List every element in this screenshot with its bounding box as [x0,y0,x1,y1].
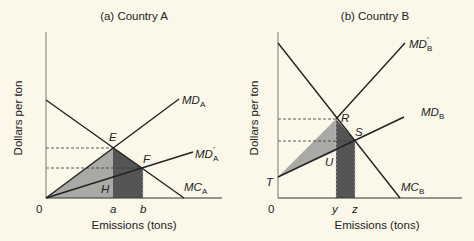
panel-a-xlabel: Emissions (tons) [92,219,177,231]
tick-y: y [331,203,339,215]
md-b-prime-curve [336,43,405,119]
point-e-label: E [109,131,117,143]
panel-b-title: (b) Country B [341,10,410,22]
point-r-label: R [341,112,349,124]
panel-a-ylabel: Dollars per ton [12,81,24,156]
point-f-label: F [143,153,151,165]
origin-label: 0 [36,203,42,215]
dark-shade-area [336,119,355,198]
panel-b-ylabel: Dollars per ton [248,81,260,156]
md-a-label: MDA [182,94,206,109]
mc-a-label: MCA [184,181,208,196]
panel-b-xlabel: Emissions (tons) [335,219,420,231]
md-a-prime-label: MDA′ [195,145,219,163]
figure: (a) Country A Dollars per ton MDA MDA′ M… [0,0,474,241]
point-t-label: T [266,176,274,188]
panel-a: (a) Country A Dollars per ton MDA MDA′ M… [12,10,222,231]
md-b-prime-label: MDB′ [409,35,432,53]
point-s-label: S [355,126,363,138]
tick-a: a [110,203,116,215]
panel-b: (b) Country B Dollars per ton MDB′ MDB M… [248,10,462,231]
point-h-label: H [101,183,110,195]
md-b-label: MDB [421,106,444,121]
light-shade-area [278,119,336,177]
origin-label: 0 [268,203,274,215]
mc-b-label: MCB [401,181,424,196]
tick-b: b [140,203,147,215]
point-u-label: U [325,156,334,168]
panel-a-title: (a) Country A [100,10,168,22]
tick-z: z [351,203,358,215]
